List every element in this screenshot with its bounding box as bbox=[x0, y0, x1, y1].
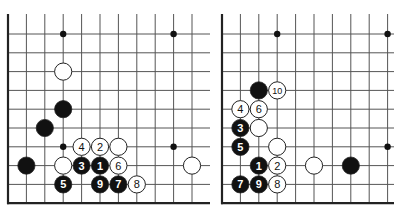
star-point-icon bbox=[170, 144, 176, 150]
move-number: 1 bbox=[256, 160, 262, 172]
star-point-icon bbox=[60, 144, 66, 150]
black-stone: 1 bbox=[250, 157, 267, 174]
black-stone: 5 bbox=[55, 176, 72, 193]
move-number: 6 bbox=[115, 160, 121, 172]
black-stone bbox=[36, 119, 53, 136]
move-number: 8 bbox=[134, 178, 140, 190]
move-number: 6 bbox=[256, 103, 262, 115]
white-stone: 6 bbox=[110, 157, 127, 174]
star-point-icon bbox=[274, 31, 280, 37]
move-number: 10 bbox=[272, 86, 282, 96]
white-stone: 10 bbox=[269, 82, 286, 99]
white-stone: 2 bbox=[269, 157, 286, 174]
board-grid bbox=[7, 14, 210, 204]
star-point-icon bbox=[60, 31, 66, 37]
star-point-icon bbox=[384, 31, 390, 37]
move-number: 8 bbox=[274, 178, 280, 190]
move-number: 7 bbox=[237, 178, 243, 190]
go-diagrams: 42316597810463512798 bbox=[0, 0, 394, 210]
diagram-left: 423165978 bbox=[7, 14, 210, 204]
white-stone bbox=[110, 138, 127, 155]
move-number: 1 bbox=[97, 160, 103, 172]
move-number: 4 bbox=[79, 141, 85, 153]
white-stone: 8 bbox=[128, 176, 145, 193]
white-stone: 6 bbox=[250, 101, 267, 118]
black-stone bbox=[55, 101, 72, 118]
white-stone: 4 bbox=[73, 138, 90, 155]
move-number: 7 bbox=[115, 178, 121, 190]
move-number: 2 bbox=[274, 160, 280, 172]
white-stone: 8 bbox=[269, 176, 286, 193]
black-stone: 3 bbox=[73, 157, 90, 174]
move-number: 9 bbox=[97, 178, 103, 190]
star-point-icon bbox=[170, 31, 176, 37]
move-number: 2 bbox=[97, 141, 103, 153]
black-stone: 9 bbox=[91, 176, 108, 193]
move-number: 5 bbox=[237, 141, 243, 153]
black-stone: 3 bbox=[232, 119, 249, 136]
black-stone: 1 bbox=[91, 157, 108, 174]
black-stone: 5 bbox=[232, 138, 249, 155]
move-number: 4 bbox=[237, 103, 243, 115]
star-point-icon bbox=[384, 144, 390, 150]
black-stone: 7 bbox=[232, 176, 249, 193]
white-stone bbox=[55, 63, 72, 80]
move-number: 3 bbox=[237, 122, 243, 134]
white-stone bbox=[55, 157, 72, 174]
move-number: 9 bbox=[256, 178, 262, 190]
black-stone bbox=[18, 157, 35, 174]
diagram-canvas: 42316597810463512798 bbox=[0, 0, 394, 210]
black-stone: 9 bbox=[250, 176, 267, 193]
white-stone bbox=[250, 119, 267, 136]
black-stone: 7 bbox=[110, 176, 127, 193]
diagram-right: 10463512798 bbox=[221, 14, 394, 204]
black-stone bbox=[342, 157, 359, 174]
white-stone bbox=[183, 157, 200, 174]
white-stone bbox=[269, 138, 286, 155]
white-stone: 2 bbox=[91, 138, 108, 155]
move-number: 5 bbox=[60, 178, 66, 190]
white-stone bbox=[305, 157, 322, 174]
white-stone: 4 bbox=[232, 101, 249, 118]
move-number: 3 bbox=[79, 160, 85, 172]
black-stone bbox=[250, 82, 267, 99]
